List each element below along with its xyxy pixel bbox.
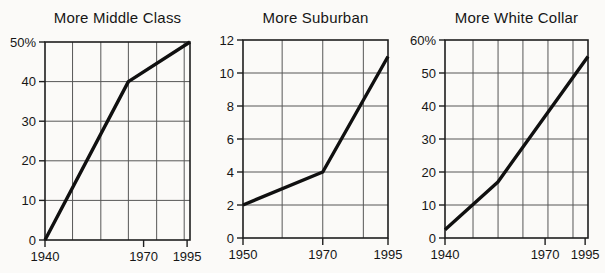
- chart-more-middle-class: 01020304050%194019701995: [10, 35, 202, 265]
- y-tick-label: 60%: [410, 33, 436, 48]
- x-tick-label: 1940: [431, 247, 460, 262]
- y-tick-label: 2: [227, 198, 234, 213]
- x-tick-label: 1940: [31, 249, 60, 264]
- y-tick-label: 40: [22, 74, 36, 89]
- three-panel-line-chart-figure: More Middle Class More Suburban More Whi…: [0, 0, 605, 273]
- y-tick-label: 50: [422, 66, 436, 81]
- y-tick-label: 40: [422, 99, 436, 114]
- x-tick-label: 1995: [173, 249, 202, 264]
- y-tick-label: 0: [429, 231, 436, 246]
- x-tick-label: 1995: [374, 247, 403, 262]
- x-tick-label: 1970: [129, 249, 158, 264]
- y-tick-label: 20: [422, 165, 436, 180]
- axis-ticks: [237, 40, 388, 245]
- x-tick-label: 1970: [531, 247, 560, 262]
- y-tick-label: 12: [220, 33, 234, 48]
- charts-canvas: 01020304050%1940197019950246810121950197…: [0, 0, 605, 273]
- chart-more-suburban: 024681012195019701995: [220, 33, 403, 263]
- y-tick-label: 6: [227, 132, 234, 147]
- y-tick-label: 8: [227, 99, 234, 114]
- gridlines: [45, 42, 190, 240]
- data-line-more-middle-class: [45, 42, 190, 240]
- chart-more-white-collar: 0102030405060%194019701995: [410, 33, 600, 263]
- data-line-more-suburban: [243, 57, 388, 206]
- y-tick-label: 4: [227, 165, 234, 180]
- data-line-more-white-collar: [445, 57, 588, 230]
- y-tick-label: 0: [29, 233, 36, 248]
- y-tick-label: 50%: [10, 35, 36, 50]
- x-tick-label: 1995: [571, 247, 600, 262]
- x-tick-label: 1950: [229, 247, 258, 262]
- y-tick-label: 10: [422, 198, 436, 213]
- y-tick-label: 30: [22, 114, 36, 129]
- plot-border: [45, 42, 190, 240]
- x-tick-label: 1970: [308, 247, 337, 262]
- y-tick-label: 20: [22, 153, 36, 168]
- gridlines: [243, 40, 388, 238]
- y-tick-label: 10: [22, 193, 36, 208]
- y-tick-label: 0: [227, 231, 234, 246]
- y-tick-label: 10: [220, 66, 234, 81]
- y-tick-label: 30: [422, 132, 436, 147]
- axis-ticks: [39, 42, 187, 247]
